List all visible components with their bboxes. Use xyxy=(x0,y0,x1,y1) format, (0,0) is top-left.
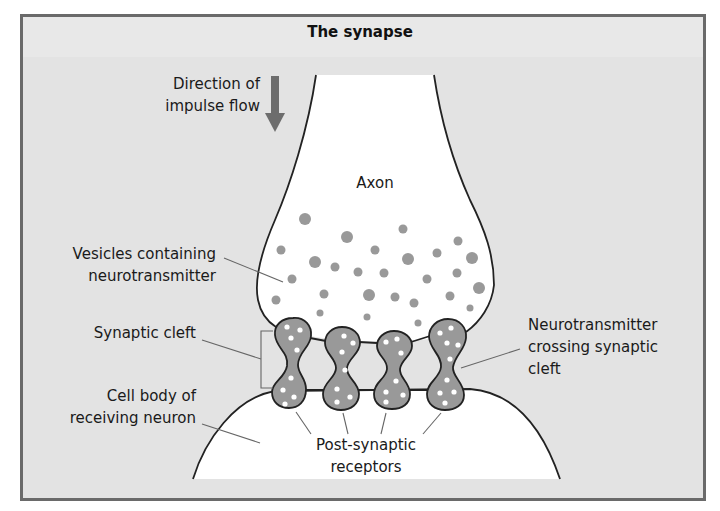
label-crossing-line3: cleft xyxy=(528,358,698,380)
label-post-synaptic: Post-synaptic receptors xyxy=(296,434,436,478)
label-cell-body-line1: Cell body of xyxy=(40,385,196,407)
synaptic-knob-2 xyxy=(323,327,360,410)
diagram-title: The synapse xyxy=(0,23,720,41)
label-vesicles-line2: neurotransmitter xyxy=(40,265,216,287)
synaptic-cleft-leader xyxy=(202,340,261,359)
label-crossing-line1: Neurotransmitter xyxy=(528,314,698,336)
synaptic-knob-3 xyxy=(374,331,412,409)
label-direction: Direction of impulse flow xyxy=(150,73,260,117)
label-cell-body-line2: receiving neuron xyxy=(40,407,196,429)
axon-terminal xyxy=(257,75,494,341)
label-direction-line1: Direction of xyxy=(150,73,260,95)
synaptic-knob-1 xyxy=(272,318,311,408)
label-crossing-line2: crossing synaptic xyxy=(528,336,698,358)
crossing-leader xyxy=(461,349,520,368)
label-cell-body: Cell body of receiving neuron xyxy=(40,385,196,429)
label-vesicles: Vesicles containing neurotransmitter xyxy=(40,243,216,287)
label-direction-line2: impulse flow xyxy=(150,95,260,117)
impulse-direction-arrow xyxy=(265,76,285,132)
label-vesicles-line1: Vesicles containing xyxy=(40,243,216,265)
label-synaptic-cleft: Synaptic cleft xyxy=(40,322,196,344)
label-post-synaptic-line1: Post-synaptic xyxy=(296,434,436,456)
synaptic-cleft-bracket xyxy=(261,331,273,388)
synaptic-knob-4 xyxy=(427,319,466,410)
label-axon: Axon xyxy=(335,172,415,194)
label-post-synaptic-line2: receptors xyxy=(296,456,436,478)
label-crossing: Neurotransmitter crossing synaptic cleft xyxy=(528,314,698,380)
